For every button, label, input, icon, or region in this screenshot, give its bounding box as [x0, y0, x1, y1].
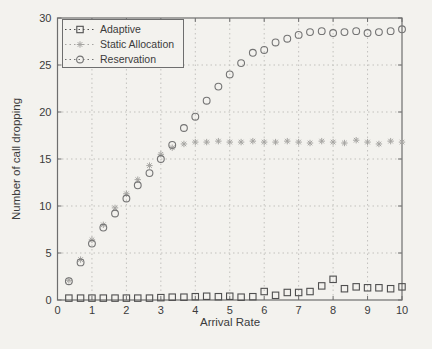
- x-axis-label: Arrival Rate: [200, 316, 260, 328]
- reservation-circle-marker-icon: [63, 52, 97, 65]
- svg-text:1: 1: [89, 304, 95, 316]
- legend-label: Reservation: [100, 53, 156, 65]
- svg-text:4: 4: [192, 304, 198, 316]
- svg-text:5: 5: [227, 304, 233, 316]
- svg-text:15: 15: [39, 153, 51, 165]
- svg-text:3: 3: [158, 304, 164, 316]
- legend-item-reservation: Reservation: [63, 52, 183, 66]
- svg-text:25: 25: [39, 59, 51, 71]
- svg-text:9: 9: [364, 304, 370, 316]
- figure: 012345678910051015202530 Number of call …: [0, 0, 432, 349]
- svg-text:20: 20: [39, 106, 51, 118]
- y-axis-label: Number of call dropping: [10, 98, 22, 220]
- svg-text:10: 10: [396, 304, 408, 316]
- adaptive-square-marker-icon: [63, 22, 97, 35]
- svg-text:0: 0: [54, 304, 60, 316]
- legend-item-static-allocation: Static Allocation: [63, 37, 183, 51]
- svg-text:30: 30: [39, 12, 51, 24]
- svg-text:2: 2: [123, 304, 129, 316]
- svg-text:10: 10: [39, 200, 51, 212]
- legend-label: Static Allocation: [100, 38, 174, 50]
- svg-text:8: 8: [330, 304, 336, 316]
- svg-text:6: 6: [261, 304, 267, 316]
- legend-label: Adaptive: [100, 23, 141, 35]
- svg-text:0: 0: [45, 294, 51, 306]
- static-allocation-asterisk-marker-icon: [63, 37, 97, 50]
- svg-text:5: 5: [45, 247, 51, 259]
- legend-item-adaptive: Adaptive: [63, 22, 183, 36]
- legend: Adaptive Static Allocation Reservation: [62, 19, 184, 68]
- svg-text:7: 7: [296, 304, 302, 316]
